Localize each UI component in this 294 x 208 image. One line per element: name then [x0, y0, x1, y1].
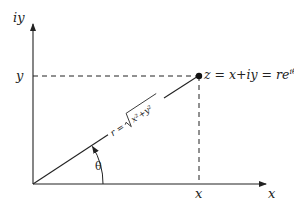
y-tick-label: y	[15, 68, 24, 83]
x-tick-label: x	[195, 186, 203, 201]
point-z-label: z = x+iy = reiθ	[203, 67, 294, 82]
angle-label: θ	[95, 160, 102, 173]
svg-text:x²+y²: x²+y²	[129, 103, 155, 125]
svg-text:r =: r =	[108, 122, 126, 138]
point-z-label-exponent: iθ	[289, 67, 294, 76]
radius-line-upper	[164, 76, 199, 99]
complex-plane-diagram: iy x y x z = x+iy = reiθ r = x²+y² θ	[0, 0, 294, 208]
point-z	[196, 73, 202, 79]
y-axis-label: iy	[13, 10, 25, 25]
x-axis-label: x	[268, 186, 276, 201]
radius-label: r = x²+y²	[106, 94, 164, 139]
